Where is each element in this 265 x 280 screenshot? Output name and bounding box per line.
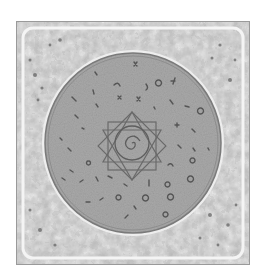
seal-artwork: [0, 0, 265, 280]
